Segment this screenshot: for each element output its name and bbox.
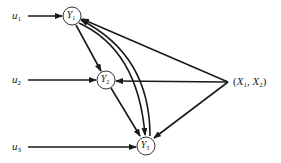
node-label-y1: Y1	[62, 10, 80, 21]
edge-y2-y3	[111, 88, 140, 136]
edge-x-y3	[154, 82, 228, 138]
node-label-y2: Y2	[96, 74, 114, 85]
input-label-u1: u1	[12, 10, 21, 23]
edge-y3-y1-curve	[81, 20, 150, 136]
input-label-u3: u3	[12, 141, 21, 154]
edge-x-y2	[116, 81, 228, 82]
exogenous-label-x1-x2: (X1, X2)	[233, 76, 266, 89]
input-label-u2: u2	[12, 74, 21, 87]
node-label-y3: Y3	[136, 140, 154, 151]
edge-y1-y2	[76, 25, 101, 71]
